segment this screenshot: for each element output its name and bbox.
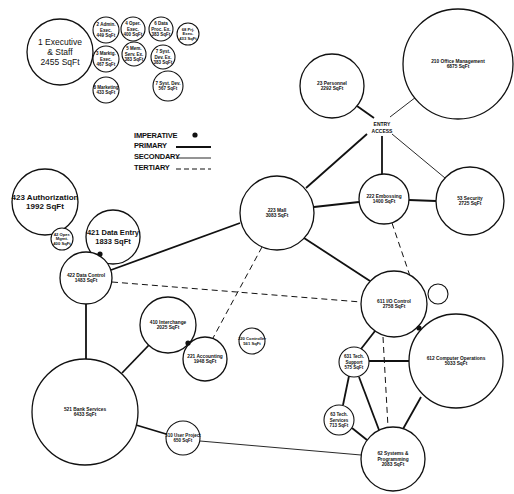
connection-primary-n612-n62 bbox=[403, 397, 421, 429]
node-label-line: 5033 SqFt bbox=[445, 361, 468, 366]
space-node-n423: 423 Authorization1992 SqFt bbox=[12, 169, 79, 235]
space-node-n23: 23 Personnel2292 SqFt bbox=[300, 54, 364, 118]
node-label-line: 521 Bank Services bbox=[64, 407, 106, 412]
node-label-line: 612 Computer Operations bbox=[427, 356, 486, 361]
legend-imperative-label: IMPERATIVE bbox=[134, 131, 177, 140]
unlabeled-circle-empty1 bbox=[428, 284, 448, 304]
connection-primary-n631-n63 bbox=[343, 376, 349, 405]
entry-access-label: ENTRY ACCESS bbox=[372, 121, 394, 134]
node-label-line: 222 Embossing bbox=[366, 194, 401, 199]
connection-primary-n223-n611 bbox=[304, 238, 370, 281]
node-label-line: 2083 SqFt bbox=[382, 462, 405, 467]
space-node-n53: 53 Security2725 SqFt bbox=[436, 167, 504, 235]
node-label-line: 62 Systems & bbox=[377, 451, 409, 456]
node-label-line: 221 Accounting bbox=[187, 354, 223, 359]
space-node-n63: 63 Tech.Services713 SqFt bbox=[324, 405, 354, 435]
connection-primary-n63-n62 bbox=[352, 428, 367, 440]
connection-primary-entry-n223 bbox=[306, 134, 367, 188]
node-label-line: 2455 SqFt bbox=[40, 57, 80, 67]
space-node-n42: 42 Oper.Mgmt.400 SqFt bbox=[51, 228, 73, 250]
node-label-line: 1948 SqFt bbox=[194, 359, 217, 364]
node-label-line: Programming bbox=[377, 457, 408, 462]
imperative-dot-icon bbox=[185, 340, 190, 345]
node-label-line: 400 SqFt bbox=[53, 241, 71, 246]
connection-secondary-n210-entry bbox=[390, 97, 416, 117]
space-node-n220: 220 Controller561 SqFt bbox=[238, 328, 267, 354]
node-label-line: 433 SqFt bbox=[97, 90, 116, 95]
node-label-line: 567 SqFt bbox=[159, 86, 178, 91]
space-node-n6: 6 DataProc. Ex.383 SqFt bbox=[149, 17, 173, 41]
adjacency-diagram: 1 Executive& Staff2455 SqFt2 Admin.Exec.… bbox=[0, 0, 514, 494]
space-node-n3: 3 Marktg.Exec.467 SqFt bbox=[93, 46, 119, 72]
space-node-n222: 222 Embossing1400 SqFt bbox=[359, 174, 409, 224]
node-label-line: 2292 SqFt bbox=[321, 86, 344, 91]
node-label-line: 2025 SqFt bbox=[157, 325, 180, 330]
connection-primary-n222-n53 bbox=[409, 200, 436, 201]
space-nodes: 1 Executive& Staff2455 SqFt2 Admin.Exec.… bbox=[12, 9, 513, 491]
space-node-n2: 2 Admin.Exec.449 SqFt bbox=[93, 17, 119, 43]
node-label-line: 650 SqFt bbox=[174, 438, 193, 443]
node-label-line: 210 Office Management bbox=[431, 59, 485, 64]
node-label-line: 1833 SqFt bbox=[95, 237, 131, 246]
node-label-line: 1400 SqFt bbox=[373, 199, 396, 204]
node-label-line: 3083 SqFt bbox=[266, 213, 289, 218]
node-label-line: 423 Authorization bbox=[12, 193, 79, 202]
node-label-line: & Staff bbox=[47, 47, 73, 57]
space-node-n68: 68 Prj.Exec.433 SqFt bbox=[177, 23, 199, 45]
connection-tertiary-n222-n611 bbox=[392, 223, 410, 276]
node-label-line: 6875 SqFt bbox=[447, 64, 470, 69]
space-node-n510: 510 User Project650 SqFt bbox=[165, 421, 201, 455]
connection-tertiary-n611-n62 bbox=[383, 337, 388, 427]
legend-primary-label: PRIMARY bbox=[134, 141, 167, 150]
space-node-n5: 5 Mem.Serv. Ex.383 SqFt bbox=[122, 42, 146, 66]
node-label-line: 23 Personnel bbox=[317, 81, 347, 86]
space-node-n62: 62 Systems &Programming2083 SqFt bbox=[361, 427, 425, 491]
node-label-line: 449 SqFt bbox=[97, 33, 116, 38]
imperative-dot-icon bbox=[416, 325, 421, 330]
legend: IMPERATIVE PRIMARY SECONDARY TERTIARY bbox=[134, 131, 211, 172]
node-label-line: 383 SqFt bbox=[154, 60, 173, 65]
imperative-dot-icon bbox=[97, 251, 102, 256]
node-label-line: 6433 SqFt bbox=[74, 412, 97, 417]
space-node-n210: 210 Office Management6875 SqFt bbox=[403, 9, 513, 119]
space-node-n4: 4 Oper.Exec.400 SqFt bbox=[121, 17, 145, 41]
node-label-line: 1483 SqFt bbox=[75, 278, 98, 283]
space-node-n223: 223 Mall3083 SqFt bbox=[240, 176, 314, 250]
node-label-line: 383 SqFt bbox=[152, 32, 171, 37]
node-label-line: 561 SqFt bbox=[243, 341, 261, 346]
space-node-n521: 521 Bank Services6433 SqFt bbox=[32, 359, 138, 465]
legend-secondary-label: SECONDARY bbox=[134, 152, 180, 161]
node-label-line: 1992 SqFt bbox=[26, 202, 64, 211]
entry-access-line1: ENTRY bbox=[374, 121, 391, 127]
connection-secondary-entry-n53 bbox=[392, 134, 445, 178]
node-label-line: 2725 SqFt bbox=[459, 201, 482, 206]
node-label-line: 422 Data Control bbox=[67, 273, 105, 278]
node-label-line: 467 SqFt bbox=[97, 62, 116, 67]
node-label-line: 433 SqFt bbox=[179, 36, 197, 41]
node-label-line: 383 SqFt bbox=[125, 57, 144, 62]
space-node-n631: 631 Tech.Support575 SqFt bbox=[339, 347, 369, 377]
space-node-n1: 1 Executive& Staff2455 SqFt bbox=[27, 19, 93, 85]
connection-primary-n410-n521 bbox=[122, 345, 149, 373]
connection-primary-n611-n631 bbox=[361, 331, 375, 349]
node-label-line: 611 I/O Control bbox=[377, 299, 411, 304]
connection-primary-n223-n222 bbox=[314, 202, 359, 207]
connection-secondary-n510-n62 bbox=[200, 441, 361, 455]
node-label-line: 2758 SqFt bbox=[383, 304, 406, 309]
connection-primary-n631-n62 bbox=[359, 377, 379, 430]
space-node-n7b: 7 Syst. Dev.567 SqFt bbox=[153, 71, 183, 101]
legend-imperative-dot-icon bbox=[192, 132, 197, 137]
node-label-line: 223 Mall bbox=[268, 208, 287, 213]
node-label-line: 1 Executive bbox=[38, 37, 82, 47]
space-node-n612: 612 Computer Operations5033 SqFt bbox=[409, 314, 503, 408]
entry-access-line2: ACCESS bbox=[372, 128, 394, 134]
node-label-line: 575 SqFt bbox=[345, 365, 364, 370]
space-node-n8: 8 Marketing433 SqFt bbox=[93, 77, 119, 103]
node-label-line: 53 Security bbox=[457, 196, 483, 201]
space-node-n422: 422 Data Control1483 SqFt bbox=[60, 252, 112, 304]
node-label-line: 713 SqFt bbox=[330, 423, 349, 428]
node-label-line: 400 SqFt bbox=[124, 32, 143, 37]
space-node-n7a: 7 Syst.Dev. Ex.383 SqFt bbox=[151, 45, 175, 69]
connection-primary-n521-n510 bbox=[136, 425, 166, 434]
connection-primary-n23-entry bbox=[357, 106, 374, 118]
